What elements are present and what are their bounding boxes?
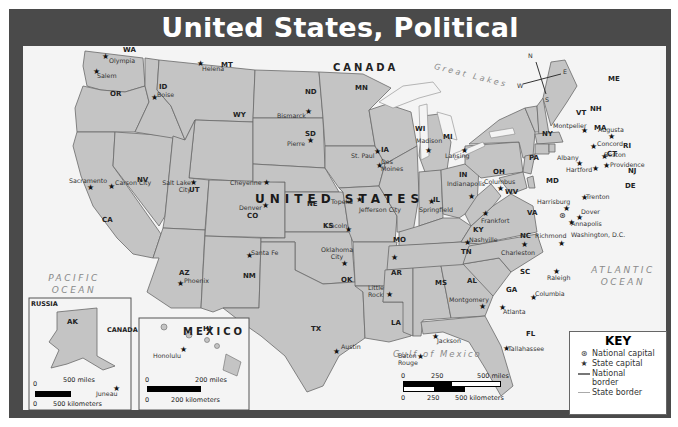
capital-oklahoma-city: Oklahoma City — [317, 246, 357, 260]
state-label-ms: MS — [435, 279, 447, 287]
label-atlantic-ocean: ATLANTIC OCEAN — [583, 264, 663, 288]
capital-hartford: Hartford — [566, 166, 592, 173]
state-label-mo: MO — [393, 236, 406, 244]
state-me — [543, 60, 577, 126]
capital-des-moines: Des Moines — [381, 158, 409, 172]
capital-lansing: Lansing — [445, 152, 469, 159]
capital-augusta: Augusta — [598, 126, 624, 133]
state-capital-star-icon: ★ — [307, 137, 314, 145]
state-capital-star-icon: ★ — [479, 303, 486, 311]
alaska-scale-bar — [35, 391, 71, 397]
state-capital-star-icon: ★ — [497, 185, 504, 193]
capital-albany: Albany — [557, 154, 579, 161]
state-capital-star-icon: ★ — [374, 148, 381, 156]
capital-juneau: Juneau — [96, 390, 118, 397]
capital-santa-fe: Santa Fe — [251, 249, 278, 256]
main-scale-bar-km — [403, 386, 465, 392]
state-label-sc: SC — [520, 268, 530, 276]
capital-salem: Salem — [97, 72, 117, 79]
hawaii-scale-km: 200 kilometers — [171, 396, 220, 404]
state-label-fl: FL — [526, 330, 535, 338]
alaska-scale-zero: 0 — [33, 380, 37, 388]
capital-annapolis: Annapolis — [571, 220, 602, 227]
state-label-va: VA — [527, 209, 537, 217]
state-capital-star-icon: ★ — [87, 184, 94, 192]
capital-richmond: Richmond — [535, 232, 567, 239]
key-label: State capital — [592, 359, 643, 368]
main-scale-zero: 0 — [401, 372, 405, 380]
capital-montgomery: Montgomery — [449, 296, 489, 303]
capital-atlanta: Atlanta — [503, 308, 526, 315]
capital-dover: Dover — [581, 208, 600, 215]
state-de — [527, 176, 535, 188]
capital-columbus: Columbus — [484, 178, 515, 185]
state-capital-star-icon: ★ — [468, 193, 475, 201]
capital-topeka: Topeka — [331, 198, 353, 205]
capital-boise: Boise — [157, 91, 174, 98]
key-label: National capital — [592, 349, 655, 358]
state-label-wa: WA — [123, 46, 136, 54]
state-label-ia: IA — [381, 146, 389, 154]
capital-cheyenne: Cheyenne — [230, 179, 262, 186]
national-capital-icon: ⊛ — [576, 349, 592, 358]
label-mexico: MEXICO — [183, 326, 245, 337]
state-label-nc: NC — [520, 232, 531, 240]
state-ct — [535, 144, 549, 154]
alaska-scale-km: 500 kilometers — [53, 400, 102, 408]
capital-frankfort: Frankfort — [481, 217, 509, 224]
capital-denver: Denver — [239, 204, 262, 211]
state-label-co: CO — [247, 212, 258, 220]
capital-austin: Austin — [341, 343, 361, 350]
state-label-oh: OH — [493, 168, 505, 176]
state-label-la: LA — [391, 319, 401, 327]
state-capital-star-icon: ★ — [190, 179, 197, 187]
capital-tallahassee: Tallahassee — [508, 345, 544, 352]
state-label-in: IN — [459, 171, 467, 179]
state-label-ga: GA — [506, 286, 517, 294]
capital-madison: Madison — [416, 137, 442, 144]
state-label-ak: AK — [67, 318, 78, 326]
label-washington-dc: Washington, D.C. — [571, 231, 625, 238]
hawaii-scale-bar — [147, 386, 201, 392]
national-border-line-icon — [576, 369, 592, 378]
capital-jefferson-city: Jefferson City — [359, 206, 401, 213]
capital-baton-rouge: Baton Rouge — [398, 352, 420, 366]
state-border-line-icon — [576, 388, 592, 397]
lake-superior — [379, 82, 441, 108]
state-label-ny: NY — [542, 130, 553, 138]
label-russia: RUSSIA — [31, 300, 58, 308]
capital-raleigh: Raleigh — [547, 274, 570, 281]
main-scale-mid-km: 250 — [427, 394, 439, 402]
national-capital-icon: ⊛ — [559, 211, 566, 220]
capital-jackson: Jackson — [437, 337, 461, 344]
compass-e: E — [563, 68, 567, 75]
capital-pierre: Pierre — [287, 140, 305, 147]
compass-w: W — [517, 82, 523, 89]
state-label-mn: MN — [355, 84, 368, 92]
page-title: United States, Political — [9, 9, 671, 47]
main-scale-miles: 500 miles — [477, 372, 509, 380]
state-label-nh: NH — [590, 105, 602, 113]
state-capital-star-icon: ★ — [262, 202, 269, 210]
state-capital-star-icon: ★ — [592, 165, 599, 173]
alaska-scale-km-zero: 0 — [33, 400, 37, 408]
key-item-state-border: State border — [576, 388, 666, 397]
state-label-ar: AR — [391, 269, 402, 277]
state-capital-star-icon: ★ — [341, 260, 348, 268]
capital-st-paul: St. Paul — [351, 152, 375, 159]
capital-bismarck: Bismarck — [277, 112, 306, 119]
key-title: KEY — [570, 334, 666, 348]
key-item-national-capital: ⊛ National capital — [576, 349, 666, 358]
state-label-ky: KY — [473, 226, 484, 234]
state-label-nm: NM — [243, 272, 256, 280]
main-scale-km-zero: 0 — [401, 394, 405, 402]
capital-lincoln: Lincoln — [325, 222, 347, 229]
state-label-az: AZ — [179, 269, 190, 277]
state-capital-star-icon: ★ — [356, 196, 363, 204]
alaska-scale-miles: 500 miles — [63, 376, 95, 384]
state-capital-star-icon: ★ — [576, 359, 592, 368]
capital-sacramento: Sacramento — [69, 177, 107, 184]
capital-salt-lake-city: Salt Lake City — [159, 179, 191, 193]
capital-helena: Helena — [202, 65, 224, 72]
capital-harrisburg: Harrisburg — [537, 198, 570, 205]
